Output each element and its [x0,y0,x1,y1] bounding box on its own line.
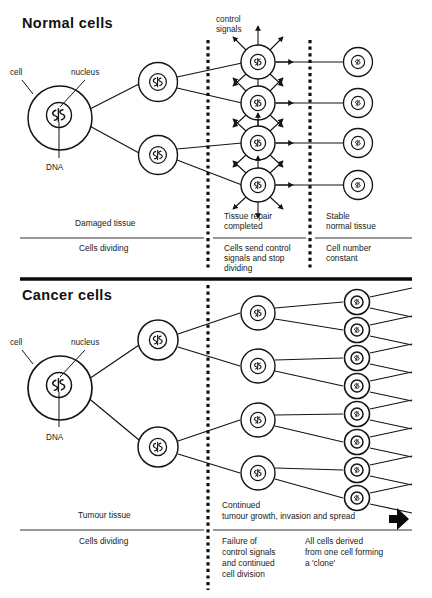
cancer-gen4-cell [345,374,370,399]
label-cell-number-line2: constant [326,253,358,263]
label-failure-line4: cell division [222,569,265,579]
label-all-cells-line1: All cells derived [305,536,364,546]
control-signals-annotation: control signals [216,15,242,34]
cancer-gen3-cell [241,296,275,330]
label-failure-line2: control signals [222,547,276,557]
normal-gen4-stable-cell [344,48,373,77]
cancer-gen3-cell [241,403,275,437]
normal-panel-heading: Normal cells [22,15,113,31]
normal-cells-panel: Normal cells control signals [10,15,412,273]
label-damaged-tissue: Damaged tissue [75,218,136,228]
cancer-cells-panel: Cancer cells [10,285,412,590]
cancer-gen3-cell [241,456,275,490]
label-tissue-repair-line2: completed [224,221,263,231]
label-cells-send-signals-line1: Cells send control [224,243,291,253]
normal-gen4-stable-cell [344,89,373,118]
label-cells-dividing-cancer: Cells dividing [79,536,129,546]
normal-dna-label: DNA [46,163,64,172]
cancer-gen4-cell [345,402,370,427]
label-stable-tissue-line1: Stable [326,211,350,221]
label-cells-send-signals-line3: dividing [224,263,253,273]
normal-cell-label: cell [10,68,22,77]
label-stable-tissue-line2: normal tissue [326,221,376,231]
cancer-gen4-cell [345,486,370,511]
label-all-cells-line3: a 'clone' [305,558,336,568]
normal-gen3-signalling-cell [233,78,293,134]
cancer-gen4-cell [345,290,370,315]
cancer-gen2-cell [138,427,178,467]
label-tumour-tissue: Tumour tissue [78,510,131,520]
cancer-gen4-cell [345,458,370,483]
cancer-lineage-links [86,302,343,498]
control-signals-label-line2: signals [216,25,242,34]
normal-gen3-signalling-cell [233,26,293,95]
control-signals-label-line1: control [216,15,241,24]
cancer-cell-label: cell [10,338,22,347]
cancer-spread-links [370,288,412,513]
cancer-gen3-cell [241,349,275,383]
label-failure-line1: Failure of [222,536,258,546]
label-cells-send-signals-line2: signals and stop [224,253,285,263]
normal-gen4-stable-cell [344,171,373,200]
cancer-gen2-cell [138,320,178,360]
label-continued-line2: tumour growth, invasion and spread [222,511,355,521]
normal-gen3-signalling-cell [233,113,293,167]
cell-division-diagram: Normal cells control signals [0,0,432,598]
normal-gen3-signalling-cell [233,156,293,218]
cancer-gen4-cell [345,318,370,343]
cancer-panel-heading: Cancer cells [22,287,112,303]
cancer-gen4-cell [345,346,370,371]
label-continued-line1: Continued [222,500,261,510]
cancer-nucleus-label: nucleus [71,338,99,347]
diagram-canvas: Normal cells control signals [0,0,432,598]
normal-parent-cell: cell nucleus DNA [10,68,99,172]
normal-gen4-stable-cell [344,129,373,158]
cancer-gen4-cell [345,430,370,455]
normal-gen2-cell [139,136,178,175]
normal-nucleus-label: nucleus [71,68,99,77]
label-cell-number-line1: Cell number [326,243,371,253]
normal-lineage-links [86,62,344,185]
cancer-dna-label: DNA [46,433,64,442]
label-all-cells-line2: from one cell forming [305,547,384,557]
normal-gen2-cell [139,63,178,102]
cancer-parent-cell: cell nucleus DNA [10,338,99,442]
label-cells-dividing-normal: Cells dividing [79,243,129,253]
label-tissue-repair-line1: Tissue repair [224,211,272,221]
label-failure-line3: and continued [222,558,275,568]
